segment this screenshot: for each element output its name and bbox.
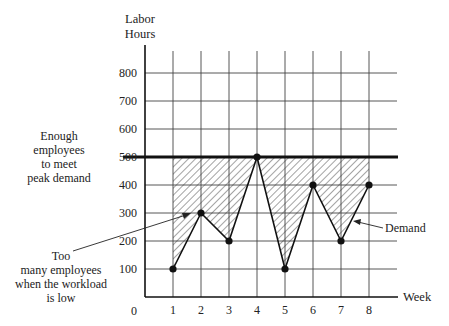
demand-point <box>225 237 232 244</box>
y-tick-label: 300 <box>119 206 137 220</box>
annotation-too-many-employees: is low <box>46 291 75 305</box>
x-tick-label: 1 <box>170 303 176 317</box>
y-tick-label: 200 <box>119 234 137 248</box>
annotation-enough-employees: Enough <box>40 129 77 143</box>
y-axis-label: Hours <box>125 27 156 41</box>
y-tick-label: 700 <box>119 94 137 108</box>
annotation-too-many-employees: Too <box>52 249 71 263</box>
annotation-pointer <box>358 222 383 228</box>
x-tick-label: 7 <box>338 303 344 317</box>
arrowhead-icon <box>353 219 361 225</box>
y-tick-label: 400 <box>119 178 137 192</box>
demand-point <box>365 181 372 188</box>
demand-point <box>253 153 260 160</box>
demand-point <box>169 265 176 272</box>
annotation-enough-employees: employees <box>33 143 85 157</box>
annotation-enough-employees: to meet <box>41 157 77 171</box>
annotation-too-many-employees: many employees <box>21 263 102 277</box>
y-tick-label: 500 <box>119 150 137 164</box>
x-tick-label: 8 <box>366 303 372 317</box>
annotation-demand: Demand <box>385 221 426 235</box>
y-axis-label: Labor <box>125 12 156 26</box>
y-tick-label: 600 <box>119 122 137 136</box>
demand-point <box>197 209 204 216</box>
x-tick-label: 5 <box>282 303 288 317</box>
x-tick-label: 6 <box>310 303 316 317</box>
annotation-too-many-employees: when the workload <box>15 277 107 291</box>
x-tick-label: 4 <box>254 303 260 317</box>
y-tick-label: 800 <box>119 66 137 80</box>
annotation-enough-employees: peak demand <box>27 171 91 185</box>
demand-point <box>281 265 288 272</box>
x-tick-label: 3 <box>226 303 232 317</box>
x-origin-label: 0 <box>131 304 137 318</box>
demand-point <box>337 237 344 244</box>
x-axis-label: Week <box>403 290 432 304</box>
demand-point <box>309 181 316 188</box>
x-tick-label: 2 <box>198 303 204 317</box>
labor-hours-chart: 100200300400500600700800012345678WeekLab… <box>0 0 449 326</box>
y-tick-label: 100 <box>119 262 137 276</box>
